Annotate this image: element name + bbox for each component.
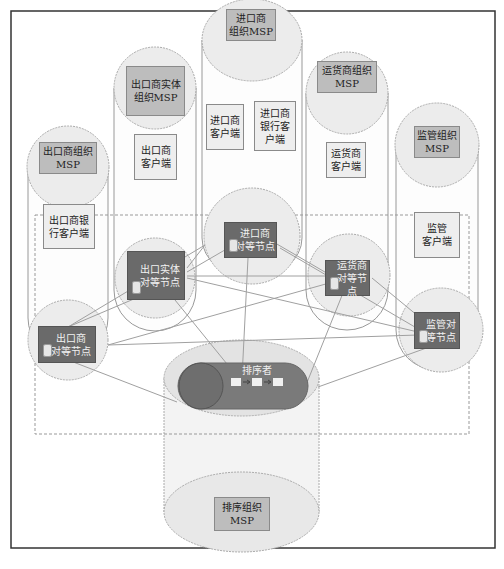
peer-regulator: 监管对等节点 [414,312,460,349]
peer-exporter: 出口商对等节点 [38,326,96,363]
peer-importer: 进口商对等节点 [224,222,277,258]
network-diagram: 出口商组织MSP 出口商实体组织MSP 进口商组织MSP 运货商组织MSP 监管… [0,0,504,569]
database-icon [229,239,238,252]
msp-freight-org: 运货商组织MSP [317,61,377,93]
database-icon [43,344,52,357]
peer-freight: 运货商对等节点 [325,260,370,296]
msp-importer-org: 进口商组织MSP [226,9,276,41]
client-importer: 进口商客户端 [206,104,244,150]
database-icon [419,330,428,343]
peer-exporter-entity: 出口实体对等节点 [127,251,185,300]
orderer-label: 排序者 [222,363,292,377]
msp-exporter-entity-org: 出口商实体组织MSP [126,66,185,116]
database-icon [330,277,339,290]
diagram-canvas [0,0,504,569]
msp-regulator-org: 监管组织MSP [414,126,460,158]
block-icon [273,378,283,386]
client-regulator: 监管客户端 [414,212,460,258]
database-icon [132,281,141,294]
msp-orderer-org: 排序组织MSP [214,497,270,531]
client-exporter-bank: 出口商银行客户端 [43,204,95,249]
block-icon [231,378,241,386]
block-icon [252,378,262,386]
msp-exporter-org: 出口商组织MSP [39,142,97,174]
client-freight: 运货商客户端 [326,142,366,178]
client-exporter: 出口商客户端 [134,134,177,180]
client-importer-bank: 进口商银行客户端 [254,101,296,151]
